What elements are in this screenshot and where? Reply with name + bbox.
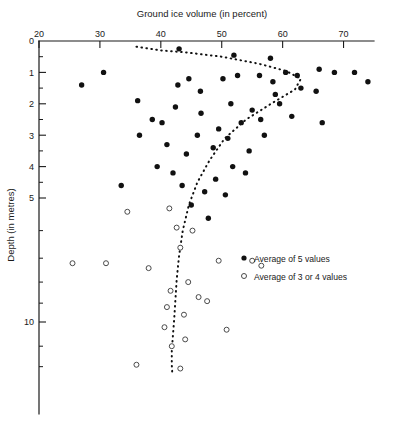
- data-point: [101, 70, 106, 75]
- data-point: [313, 89, 318, 94]
- legend-label-filled: Average of 5 values: [254, 254, 330, 264]
- data-point: [206, 216, 211, 221]
- data-point: [168, 288, 173, 293]
- data-point: [175, 82, 180, 87]
- data-point: [231, 52, 236, 57]
- data-point: [316, 67, 321, 72]
- data-point: [198, 89, 203, 94]
- data-point: [230, 164, 235, 169]
- data-point: [239, 120, 244, 125]
- x-axis-ticks: 203040506070: [34, 29, 349, 48]
- y-tick-label-3: 3: [29, 131, 34, 141]
- data-point: [176, 46, 181, 51]
- x-tick-label-50: 50: [217, 29, 227, 39]
- data-point: [186, 76, 191, 81]
- data-point: [184, 151, 189, 156]
- data-point: [352, 70, 357, 75]
- legend-marker-filled-circle-icon: [241, 255, 246, 260]
- data-point: [164, 305, 169, 310]
- series-filled-points: [79, 46, 371, 221]
- data-point: [150, 117, 155, 122]
- data-point: [258, 117, 263, 122]
- x-tick-label-60: 60: [278, 29, 288, 39]
- data-point: [289, 114, 294, 119]
- data-point: [159, 120, 164, 125]
- data-point: [365, 79, 370, 84]
- data-point: [181, 312, 186, 317]
- data-point: [202, 189, 207, 194]
- data-point: [125, 209, 130, 214]
- data-point: [167, 206, 172, 211]
- data-point: [135, 98, 140, 103]
- data-point: [223, 192, 228, 197]
- data-point: [169, 344, 174, 349]
- data-point: [174, 225, 179, 230]
- data-point: [137, 133, 142, 138]
- series-open-points: [70, 206, 264, 371]
- y-tick-label-10: 10: [24, 317, 34, 327]
- data-point: [283, 70, 288, 75]
- data-point: [268, 56, 273, 61]
- y-tick-label-1: 1: [29, 68, 34, 78]
- legend: Average of 5 values Average of 3 or 4 va…: [241, 254, 347, 282]
- data-point: [190, 228, 195, 233]
- legend-label-open: Average of 3 or 4 values: [254, 272, 347, 282]
- data-point: [216, 126, 221, 131]
- data-point: [249, 107, 254, 112]
- data-point: [104, 261, 109, 266]
- y-axis-title: Depth (in metres): [5, 188, 16, 261]
- data-point: [205, 299, 210, 304]
- data-point: [213, 176, 218, 181]
- data-point: [332, 70, 337, 75]
- data-point: [225, 136, 230, 141]
- data-point: [220, 76, 225, 81]
- data-point: [228, 101, 233, 106]
- data-point: [195, 133, 200, 138]
- data-point: [134, 362, 139, 367]
- data-point: [186, 280, 191, 285]
- data-point: [320, 120, 325, 125]
- data-point: [146, 266, 151, 271]
- data-point: [243, 170, 248, 175]
- legend-marker-open-circle-icon: [242, 274, 247, 279]
- x-tick-label-20: 20: [34, 29, 44, 39]
- data-point: [183, 337, 188, 342]
- data-point: [178, 245, 183, 250]
- x-tick-label-40: 40: [156, 29, 166, 39]
- y-axis-ticks: 01234510: [24, 36, 46, 366]
- y-tick-label-4: 4: [29, 162, 34, 172]
- data-point: [295, 73, 300, 78]
- y-tick-label-0: 0: [29, 36, 34, 46]
- data-point: [189, 202, 194, 207]
- data-point: [164, 142, 169, 147]
- data-point: [179, 183, 184, 188]
- data-point: [170, 170, 175, 175]
- y-tick-label-5: 5: [29, 193, 34, 203]
- y-tick-label-2: 2: [29, 99, 34, 109]
- data-point: [270, 79, 275, 84]
- data-point: [277, 101, 282, 106]
- data-point: [178, 366, 183, 371]
- data-point: [262, 133, 267, 138]
- data-point: [216, 258, 221, 263]
- data-point: [211, 145, 216, 150]
- data-point: [79, 82, 84, 87]
- data-point: [196, 295, 201, 300]
- data-point: [257, 73, 262, 78]
- x-tick-label-70: 70: [339, 29, 349, 39]
- data-point: [70, 261, 75, 266]
- data-point: [298, 85, 303, 90]
- plot-area: Ground ice volume (in percent) Depth (in…: [0, 0, 404, 422]
- data-point: [246, 148, 251, 153]
- data-point: [259, 263, 264, 268]
- data-point: [154, 164, 159, 169]
- data-point: [119, 183, 124, 188]
- data-point: [162, 325, 167, 330]
- x-tick-label-30: 30: [95, 29, 105, 39]
- data-point: [235, 73, 240, 78]
- data-point: [198, 111, 203, 116]
- scatter-chart: Ground ice volume (in percent) Depth (in…: [0, 0, 404, 422]
- data-point: [224, 327, 229, 332]
- data-point: [273, 92, 278, 97]
- data-point: [173, 104, 178, 109]
